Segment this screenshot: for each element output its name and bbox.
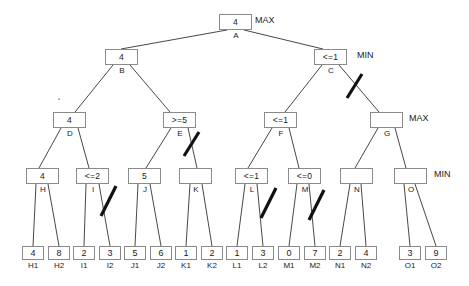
level-label-min-3: MIN (434, 169, 451, 179)
tree-edge (340, 184, 350, 246)
leaf-node-m1: 0 (278, 246, 300, 260)
tree-edge (244, 30, 323, 49)
node-label-m: M (298, 185, 312, 194)
tree-edge (248, 128, 272, 168)
leaf-node-l1: 1 (226, 246, 248, 260)
leaf-node-h2: 8 (48, 246, 70, 260)
node-label-f: F (274, 129, 288, 138)
leaf-node-n1: 2 (329, 246, 351, 260)
leaf-node-j1: 5 (124, 246, 146, 260)
level-label-max-2: MAX (409, 113, 429, 123)
leaf-node-j2: 6 (150, 246, 172, 260)
tree-node-f: <=1 (264, 112, 297, 128)
tree-edge (75, 65, 113, 112)
leaf-node-o2: 9 (425, 246, 447, 260)
tree-node-d: 4 (53, 112, 86, 128)
tree-edge (289, 128, 299, 168)
prune-marks-group (101, 74, 362, 220)
tree-node-j: 5 (128, 168, 161, 184)
leaf-label-i2: I2 (98, 261, 122, 270)
leaf-label-o2: O2 (424, 261, 448, 270)
scan-speck (58, 98, 60, 100)
tree-edge (395, 128, 406, 168)
tree-edge (121, 30, 227, 49)
node-label-j: J (138, 185, 152, 194)
tree-node-l: <=1 (235, 168, 268, 184)
node-label-e: E (173, 129, 187, 138)
leaf-label-h1: H1 (21, 261, 45, 270)
leaf-label-k2: K2 (200, 261, 224, 270)
node-label-c: C (324, 66, 338, 75)
tree-edges-layer (0, 0, 469, 286)
level-label-max-0: MAX (255, 15, 275, 25)
leaf-label-l2: L2 (251, 261, 275, 270)
tree-node-g (370, 112, 403, 128)
node-label-n: N (350, 185, 364, 194)
tree-edge (355, 128, 378, 168)
tree-edge (130, 65, 170, 112)
tree-edge (78, 128, 89, 168)
leaf-node-i1: 2 (73, 246, 95, 260)
tree-node-i: <=2 (76, 168, 109, 184)
tree-edge (237, 184, 245, 246)
leaf-label-m2: M2 (303, 261, 327, 270)
leaf-label-j1: J1 (123, 261, 147, 270)
node-label-o: O (404, 185, 418, 194)
prune-slash-icon (261, 188, 276, 218)
node-label-l: L (245, 185, 259, 194)
leaf-node-k1: 1 (175, 246, 197, 260)
leaf-label-m1: M1 (277, 261, 301, 270)
node-label-b: B (115, 66, 129, 75)
node-label-g: G (380, 129, 394, 138)
leaf-node-i2: 3 (99, 246, 121, 260)
node-label-h: H (36, 185, 50, 194)
tree-node-a: 4 (219, 14, 252, 30)
leaf-node-m2: 7 (304, 246, 326, 260)
tree-edge (39, 128, 61, 168)
tree-node-b: 4 (105, 49, 138, 65)
tree-edge (339, 65, 379, 112)
prune-slash-icon (101, 186, 116, 216)
tree-node-n (340, 168, 373, 184)
tree-edge (146, 128, 171, 168)
leaf-node-n2: 4 (355, 246, 377, 260)
leaf-node-h1: 4 (22, 246, 44, 260)
tree-edge (415, 184, 436, 246)
leaf-label-h2: H2 (47, 261, 71, 270)
node-label-a: A (229, 31, 243, 40)
tree-edge (202, 184, 212, 246)
leaf-label-j2: J2 (149, 261, 173, 270)
tree-node-e: >=5 (163, 112, 196, 128)
leaf-node-o1: 3 (399, 246, 421, 260)
level-label-min-1: MIN (357, 50, 374, 60)
leaf-label-n2: N2 (354, 261, 378, 270)
leaf-label-n1: N1 (328, 261, 352, 270)
node-label-i: I (86, 185, 100, 194)
node-label-k: K (189, 185, 203, 194)
tree-node-k (179, 168, 212, 184)
leaf-label-l1: L1 (225, 261, 249, 270)
tree-edge (285, 65, 322, 112)
leaf-label-o1: O1 (398, 261, 422, 270)
tree-edge (289, 184, 297, 246)
leaf-node-l2: 3 (252, 246, 274, 260)
node-label-d: D (63, 129, 77, 138)
leaf-label-k1: K1 (174, 261, 198, 270)
leaf-node-k2: 2 (201, 246, 223, 260)
edges-group (33, 30, 436, 246)
tree-node-m: <=0 (288, 168, 321, 184)
leaf-label-i1: I1 (72, 261, 96, 270)
tree-node-h: 4 (26, 168, 59, 184)
tree-node-o (394, 168, 427, 184)
tree-node-c: <=1 (314, 49, 347, 65)
